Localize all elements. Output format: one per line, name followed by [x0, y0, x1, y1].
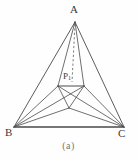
- edge-B-R: [14, 86, 84, 127]
- point-label-p: P1: [63, 72, 71, 81]
- mid-converging-edges: [58, 86, 84, 108]
- vertex-label-b: B: [5, 127, 12, 138]
- vertex-label-a: A: [70, 4, 78, 15]
- point-label-p-subscript: 1: [68, 75, 71, 81]
- edge-C-R: [84, 86, 124, 127]
- edge-R-O: [69, 86, 84, 108]
- edge-C-O: [69, 108, 124, 127]
- figure-caption: (a): [0, 140, 137, 151]
- edge-B-L: [14, 86, 58, 127]
- geometry-figure: A B C P1 (a): [0, 0, 137, 160]
- vertex-label-c: C: [118, 128, 125, 139]
